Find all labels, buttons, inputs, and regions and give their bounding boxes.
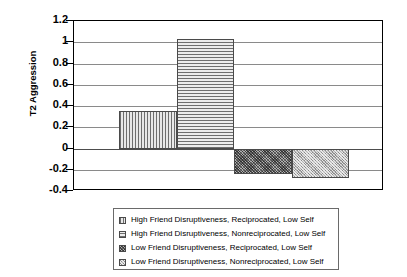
legend-item-label: Low Friend Disruptiveness, Reciprocated,… <box>131 243 312 253</box>
plot-area <box>73 20 383 190</box>
y-axis-tick-label: 0.6 <box>22 78 68 89</box>
legend-item-label: High Friend Disruptiveness, Reciprocated… <box>131 215 314 225</box>
chart-legend: High Friend Disruptiveness, Reciprocated… <box>113 208 339 270</box>
bar-2 <box>177 39 235 148</box>
y-axis-tick-label: 0.2 <box>22 120 68 131</box>
legend-swatch-icon <box>119 217 126 224</box>
y-axis-tick-mark <box>66 190 73 191</box>
legend-item-label: High Friend Disruptiveness, Nonreciproca… <box>131 229 325 239</box>
y-axis-tick-label: 1.2 <box>22 14 68 25</box>
legend-swatch-icon <box>119 259 126 266</box>
y-axis-tick-label: -0.2 <box>22 163 68 174</box>
y-axis-tick-mark <box>66 105 73 106</box>
y-axis-tick-label: 0.4 <box>22 99 68 110</box>
legend-swatch-icon <box>119 245 126 252</box>
y-axis-tick-mark <box>66 63 73 64</box>
y-axis-tick-label: 0 <box>22 142 68 153</box>
legend-item: Low Friend Disruptiveness, Reciprocated,… <box>119 241 333 255</box>
bar-4 <box>292 149 350 179</box>
legend-swatch-icon <box>119 231 126 238</box>
y-axis-tick-mark <box>66 41 73 42</box>
y-axis-tick-mark <box>66 148 73 149</box>
y-axis-tick-label: -0.4 <box>22 184 68 195</box>
y-axis-tick-label: 0.8 <box>22 57 68 68</box>
legend-item: High Friend Disruptiveness, Reciprocated… <box>119 213 333 227</box>
legend-item: Low Friend Disruptiveness, Nonreciprocat… <box>119 255 333 269</box>
chart-figure: T2 Aggression 1.210.80.60.40.20-0.2-0.4 … <box>0 0 407 277</box>
y-axis-tick-mark <box>66 84 73 85</box>
y-axis-tick-label: 1 <box>22 35 68 46</box>
bar-1 <box>119 111 177 148</box>
bar-3 <box>234 149 292 175</box>
legend-item: High Friend Disruptiveness, Nonreciproca… <box>119 227 333 241</box>
y-axis-tick-mark <box>66 169 73 170</box>
y-axis-tick-mark <box>66 126 73 127</box>
y-axis-tick-mark <box>66 20 73 21</box>
legend-item-label: Low Friend Disruptiveness, Nonreciprocat… <box>131 257 324 267</box>
